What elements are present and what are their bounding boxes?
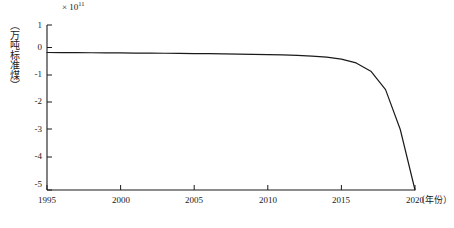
axes-group	[47, 25, 415, 190]
x-axis-ticks	[47, 185, 415, 190]
chart-plot-area	[0, 0, 454, 228]
line-series-cumulative	[47, 53, 415, 191]
chart-figure: × 1011 （万吨标准煤） 1 0 -1 -2 -3 -4 -5 1995 2…	[0, 0, 454, 228]
y-axis-ticks	[47, 25, 52, 190]
